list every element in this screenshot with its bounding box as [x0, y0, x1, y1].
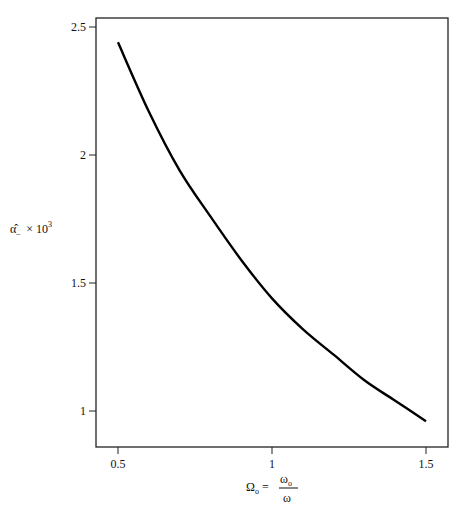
- x-tick-label: 1.5: [419, 457, 434, 471]
- chart: 11.522.5 0.511.5 α̂–× 103 Ωo= ωo ω: [0, 0, 463, 512]
- y-tick-label: 1: [80, 404, 86, 418]
- y-tick-label: 1.5: [71, 276, 86, 290]
- svg-text:Ωo=: Ωo=: [246, 480, 269, 496]
- x-axis-label: Ωo= ωo ω: [246, 472, 298, 505]
- y-tick-label: 2: [80, 148, 86, 162]
- x-tick-label: 0.5: [111, 457, 126, 471]
- y-tick-label: 2.5: [71, 20, 86, 34]
- svg-text:ω: ω: [283, 491, 291, 505]
- x-tick-label: 1: [269, 457, 275, 471]
- plot-frame: [96, 18, 448, 447]
- svg-text:ωo: ωo: [280, 472, 292, 488]
- svg-text:α̂–× 103: α̂–× 103: [10, 220, 52, 238]
- y-axis-ticks: 11.522.5: [71, 20, 96, 418]
- data-line: [118, 42, 426, 421]
- y-axis-label: α̂–× 103: [10, 220, 52, 238]
- x-axis-ticks: 0.511.5: [111, 447, 434, 471]
